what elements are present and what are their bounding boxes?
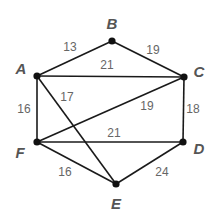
- edge-a-e: [37, 76, 116, 184]
- edge-weight-a-c: 21: [100, 58, 114, 72]
- edge-a-c: [37, 76, 184, 77]
- edge-weight-a-b: 13: [63, 40, 77, 54]
- node-e: [112, 180, 119, 187]
- edge-weight-f-c: 19: [140, 99, 154, 113]
- node-c: [180, 73, 187, 80]
- node-label-b: B: [107, 15, 118, 32]
- edge-weight-c-d: 18: [186, 102, 200, 116]
- edge-weight-f-d: 21: [107, 126, 121, 140]
- edge-weight-b-c: 19: [146, 43, 160, 57]
- edge-f-e: [37, 142, 116, 184]
- node-a: [33, 72, 40, 79]
- node-d: [179, 138, 186, 145]
- edge-weight-f-e: 16: [58, 165, 72, 179]
- node-f: [33, 138, 40, 145]
- node-label-a: A: [15, 60, 27, 77]
- edge-weight-a-f: 16: [17, 102, 31, 116]
- node-label-d: D: [194, 140, 205, 157]
- edge-weight-e-d: 24: [155, 165, 169, 179]
- edge-weight-a-e: 17: [60, 90, 74, 104]
- node-label-c: C: [194, 63, 206, 80]
- node-label-f: F: [15, 144, 25, 161]
- weighted-graph-diagram: 13192117161918211624 ABCDFE: [0, 0, 213, 221]
- edge-c-d: [183, 77, 184, 142]
- edge-e-d: [116, 142, 183, 184]
- node-b: [108, 37, 115, 44]
- node-label-e: E: [111, 195, 122, 212]
- node-labels: ABCDFE: [15, 15, 206, 212]
